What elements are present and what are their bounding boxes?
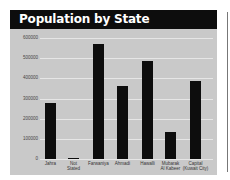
- bar: [68, 158, 79, 160]
- chart-panel: Population by State 01000002000003000004…: [10, 10, 217, 175]
- x-tick-label: Capital(Kuwait City): [181, 161, 211, 171]
- bar: [93, 44, 104, 159]
- plot-area: 0100000200000300000400000500000600000Jah…: [10, 29, 217, 175]
- bar: [190, 81, 201, 159]
- y-tick-label: 500000: [10, 55, 38, 61]
- bar: [45, 103, 56, 159]
- gridline: [40, 159, 213, 160]
- y-tick-label: 300000: [10, 96, 38, 102]
- bar: [142, 61, 153, 159]
- bar: [117, 86, 128, 159]
- title-bar: Population by State: [10, 10, 217, 29]
- y-tick-label: 600000: [10, 35, 38, 41]
- gridline: [40, 78, 213, 79]
- chart-title: Population by State: [19, 12, 149, 26]
- x-tick-label-line: (Kuwait City): [181, 166, 211, 171]
- bar: [165, 132, 176, 159]
- y-tick-label: 100000: [10, 136, 38, 142]
- y-tick-label: 0: [10, 156, 38, 162]
- divider: [227, 12, 228, 172]
- gridline: [40, 38, 213, 39]
- gridline: [40, 58, 213, 59]
- x-tick-label-line: Stated: [59, 166, 89, 171]
- y-tick-label: 400000: [10, 75, 38, 81]
- y-tick-label: 200000: [10, 116, 38, 122]
